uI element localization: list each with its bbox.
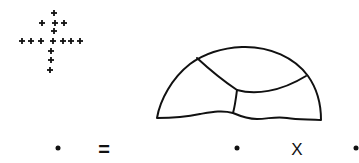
dome-outline — [157, 47, 321, 120]
times-sign: X — [291, 141, 302, 158]
bullet-dot — [354, 146, 359, 151]
dome-divider-right — [237, 76, 306, 92]
dome-divider-upper-left — [197, 58, 237, 90]
bullet-dot — [56, 146, 61, 151]
dome-divider-bottom — [233, 90, 237, 113]
equals-sign: = — [98, 139, 110, 159]
bullet-dot — [235, 146, 240, 151]
